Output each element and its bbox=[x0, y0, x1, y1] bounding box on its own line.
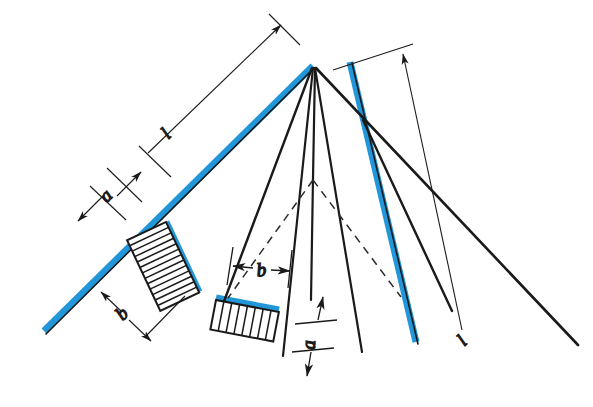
dim-right-l-ext-top bbox=[333, 44, 413, 70]
king-post-lower bbox=[311, 178, 313, 300]
technical-diagram-svg: l a b b bbox=[0, 0, 593, 407]
dim-center-a-arrow-top bbox=[318, 297, 323, 320]
dimension-left-a: a bbox=[78, 168, 142, 221]
dim-center-b-label: b bbox=[255, 259, 267, 281]
right-outer-rafter bbox=[316, 68, 578, 345]
dim-left-a-arrow-top bbox=[117, 172, 141, 196]
dim-left-a-label: a bbox=[95, 185, 117, 207]
dim-left-l-ext-near bbox=[139, 146, 171, 177]
dim-center-a-label: a bbox=[298, 340, 319, 350]
dim-left-l-ext-far bbox=[269, 14, 300, 45]
dim-left-b-label: b bbox=[111, 303, 133, 325]
king-post-vertical bbox=[313, 68, 315, 178]
dimension-left-length: l bbox=[139, 14, 300, 177]
right-rafter-edge-line bbox=[352, 63, 418, 344]
diagram-canvas: l a b b bbox=[0, 0, 593, 407]
dim-left-a-arrow-bottom bbox=[78, 195, 104, 221]
dim-right-l-label: l bbox=[452, 331, 471, 350]
dim-left-l-label: l bbox=[156, 124, 175, 143]
dimension-center-a: a bbox=[292, 297, 337, 376]
dim-center-b-arrow-right bbox=[271, 270, 290, 271]
dashed-line-left bbox=[228, 180, 313, 298]
dashed-construction-group bbox=[228, 180, 401, 298]
dashed-line-right bbox=[313, 180, 401, 297]
dim-center-a-arrow-bottom bbox=[307, 352, 311, 376]
dim-left-b-arrow-bottom bbox=[129, 320, 151, 341]
dim-right-l-line bbox=[403, 54, 462, 330]
blue-member-right-rafter bbox=[350, 62, 416, 342]
center-left-strut bbox=[283, 68, 313, 356]
blue-members-group bbox=[44, 62, 416, 342]
right-mid-rafter bbox=[363, 120, 452, 311]
dim-center-a-ext-top bbox=[295, 320, 337, 324]
